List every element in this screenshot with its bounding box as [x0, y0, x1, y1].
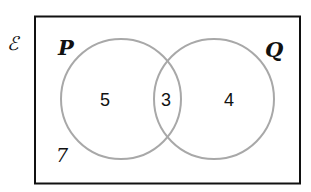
q-only-count: 4 — [224, 90, 234, 110]
p-only-count: 5 — [100, 90, 110, 110]
venn-diagram: ℰ P Q 5 3 4 7 — [0, 0, 311, 192]
outside-count: 7 — [56, 144, 69, 166]
set-q-circle — [154, 39, 274, 159]
set-p-label: P — [57, 35, 75, 60]
intersection-count: 3 — [161, 90, 171, 110]
universal-set-label: ℰ — [7, 32, 21, 54]
set-q-label: Q — [265, 37, 283, 62]
